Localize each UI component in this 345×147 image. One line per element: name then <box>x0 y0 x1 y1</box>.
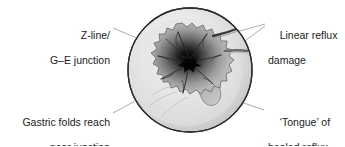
figure-page: Z-line/ G–E junction Linear reflux damag… <box>0 0 345 146</box>
tongue-label-line2: healed reflux <box>268 141 344 147</box>
linear-reflux-label-line2: damage <box>268 54 342 67</box>
linear-reflux-streak-lower <box>225 50 248 51</box>
gastric-folds-label-line1: Gastric folds reach <box>22 116 110 128</box>
linear-reflux-label-line1: Linear reflux <box>280 29 338 41</box>
tongue-label-line1: ‘Tongue’ of <box>280 116 330 128</box>
gastric-folds-label: Gastric folds reach near junction <box>4 103 110 146</box>
z-line-ge-junction-label: Z-line/ G–E junction <box>6 16 110 91</box>
z-line-label-line1: Z-line/ <box>81 29 110 41</box>
tongue-healed-reflux-label: ‘Tongue’ of healed reflux <box>268 103 344 146</box>
gastric-folds-label-line2: near junction <box>4 141 110 147</box>
z-line-label-line2: G–E junction <box>6 54 110 67</box>
linear-reflux-damage-label: Linear reflux damage <box>268 16 342 91</box>
